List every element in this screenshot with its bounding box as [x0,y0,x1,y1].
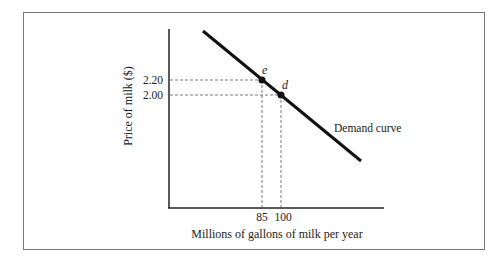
demand-chart: e d 2.20 2.00 85 100 Millions of gallons… [0,0,492,265]
point-d-marker [278,92,285,99]
x-tick-100: 100 [274,211,292,223]
point-e-marker [259,77,266,84]
x-tick-85: 85 [256,211,268,223]
point-d-label: d [282,78,289,92]
y-tick-2-20: 2.20 [143,74,163,86]
point-e-label: e [262,63,268,77]
y-tick-2-00: 2.00 [143,89,163,101]
demand-curve-label: Demand curve [334,122,401,134]
x-axis-label: Millions of gallons of milk per year [191,227,362,241]
y-axis-label: Price of milk ($) [121,66,135,146]
